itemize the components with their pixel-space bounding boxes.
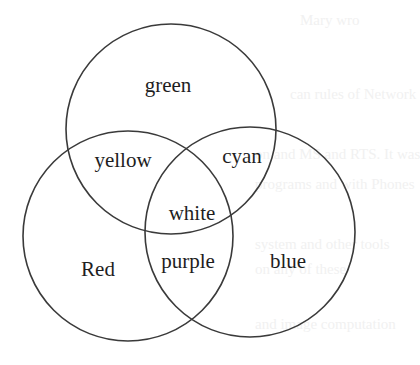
label-purple: purple [161, 249, 215, 273]
venn-circles [23, 24, 355, 341]
label-yellow: yellow [94, 148, 152, 172]
label-cyan: cyan [222, 144, 262, 168]
label-red: Red [81, 257, 115, 281]
label-white: white [169, 201, 216, 225]
label-green: green [145, 73, 192, 97]
label-blue: blue [270, 249, 306, 273]
